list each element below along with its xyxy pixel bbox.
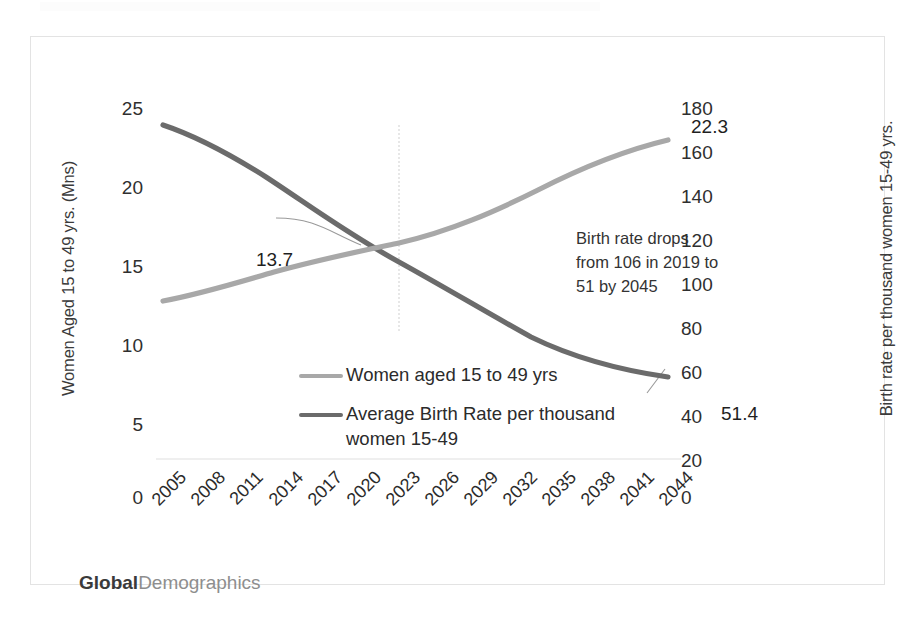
right-axis-title: Birth rate per thousand women 15-49 yrs. — [877, 69, 896, 469]
x-tick-2038: 2038 — [577, 467, 620, 510]
data-label-birthrate-end: 51.4 — [721, 403, 758, 425]
left-tick-15: 15 — [122, 257, 143, 276]
legend-label-women: Women aged 15 to 49 yrs — [346, 363, 558, 388]
x-tick-2023: 2023 — [382, 467, 425, 510]
left-tick-20: 20 — [122, 178, 143, 197]
annotation-line-3: 51 by 2045 — [576, 275, 761, 299]
left-tick-25: 25 — [122, 99, 143, 118]
chart-card: Women Aged 15 to 49 yrs. (Mns) Birth rat… — [30, 36, 885, 585]
data-label-crossover: 13.7 — [256, 249, 293, 271]
x-tick-2029: 2029 — [460, 467, 503, 510]
left-tick-0: 0 — [132, 488, 143, 507]
x-tick-2026: 2026 — [421, 467, 464, 510]
scan-artifact-strip — [40, 2, 600, 11]
right-tick-80: 80 — [681, 319, 702, 338]
x-tick-2008: 2008 — [187, 467, 230, 510]
brand-wordmark: GlobalDemographics — [79, 572, 261, 594]
legend-label-birth-rate: Average Birth Rate per thousand women 15… — [346, 402, 629, 452]
x-tick-2035: 2035 — [538, 467, 581, 510]
annotation-line-2: from 106 in 2019 to — [576, 251, 761, 275]
brand-strong-text: Global — [79, 572, 138, 593]
x-tick-2014: 2014 — [265, 467, 308, 510]
left-axis-title: Women Aged 15 to 49 yrs. (Mns) — [59, 114, 78, 444]
data-label-women-end: 22.3 — [691, 116, 728, 138]
left-tick-10: 10 — [122, 336, 143, 355]
x-tick-2020: 2020 — [343, 467, 386, 510]
right-tick-140: 140 — [681, 187, 713, 206]
screenshot-root: Women Aged 15 to 49 yrs. (Mns) Birth rat… — [0, 0, 911, 620]
x-tick-2005: 2005 — [148, 467, 191, 510]
legend-swatch-icon-birth-rate — [299, 413, 343, 417]
legend-item-birth-rate[interactable]: Average Birth Rate per thousand women 15… — [299, 402, 629, 452]
brand-light-text: Demographics — [138, 572, 261, 593]
chart-legend: Women aged 15 to 49 yrs Average Birth Ra… — [299, 363, 629, 466]
annotation-line-1: Birth rate drops — [576, 227, 761, 251]
x-tick-2011: 2011 — [225, 467, 267, 509]
x-tick-2032: 2032 — [499, 467, 542, 510]
x-tick-2041: 2041 — [616, 467, 659, 510]
left-axis-ticks: 25 20 15 10 5 0 — [91, 37, 143, 586]
right-tick-160: 160 — [681, 143, 713, 162]
left-tick-5: 5 — [132, 415, 143, 434]
legend-item-women[interactable]: Women aged 15 to 49 yrs — [299, 363, 629, 388]
legend-swatch-icon-women — [299, 374, 343, 378]
annotation-textbox: Birth rate drops from 106 in 2019 to 51 … — [576, 227, 761, 299]
x-axis-ticks: 2005 2008 2011 2014 2017 2020 2023 2026 … — [156, 37, 681, 586]
x-tick-2017: 2017 — [304, 467, 347, 510]
right-tick-40: 40 — [681, 407, 702, 426]
right-tick-60: 60 — [681, 363, 702, 382]
